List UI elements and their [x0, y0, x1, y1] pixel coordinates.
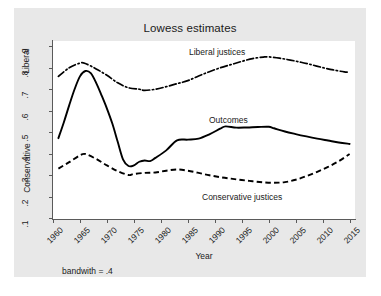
y-tick-label: .6 — [20, 110, 30, 124]
x-tick-mark — [134, 220, 135, 223]
x-tick-mark — [269, 220, 270, 223]
x-axis-spine — [52, 219, 356, 220]
x-tick-mark — [323, 220, 324, 223]
y-tick-label: .7 — [20, 88, 30, 102]
annotation-liberal-justices: Liberal justices — [189, 47, 245, 57]
x-tick-mark — [350, 220, 351, 223]
y-tick-mark — [49, 132, 52, 133]
x-tick-mark — [296, 220, 297, 223]
series-line-outcomes — [58, 71, 349, 167]
x-tick-mark — [242, 220, 243, 223]
x-tick-mark — [107, 220, 108, 223]
y-tick-label: .9 — [20, 45, 30, 59]
y-tick-label: .4 — [20, 153, 30, 167]
x-tick-mark — [53, 220, 54, 223]
annotation-outcomes: Outcomes — [209, 115, 248, 125]
chart-title: Lowess estimates — [14, 22, 366, 34]
y-tick-mark — [49, 46, 52, 47]
annotation-conservative-justices: Conservative justices — [202, 192, 282, 202]
chart-figure: Lowess estimates Liberal Conservative .1… — [14, 8, 366, 277]
y-tick-label: .5 — [20, 131, 30, 145]
y-tick-mark — [49, 197, 52, 198]
x-tick-mark — [80, 220, 81, 223]
x-tick-mark — [161, 220, 162, 223]
y-tick-mark — [49, 175, 52, 176]
y-tick-mark — [49, 218, 52, 219]
x-tick-mark — [215, 220, 216, 223]
y-tick-label: .1 — [20, 217, 30, 231]
bandwidth-note: bandwith = .4 — [62, 266, 113, 276]
y-tick-mark — [49, 68, 52, 69]
y-tick-label: .3 — [20, 174, 30, 188]
y-tick-label: .2 — [20, 196, 30, 210]
y-tick-mark — [49, 154, 52, 155]
series-line-liberal-justices — [58, 57, 349, 91]
y-tick-mark — [49, 89, 52, 90]
x-axis-title: Year — [52, 251, 356, 261]
x-tick-mark — [188, 220, 189, 223]
y-tick-mark — [49, 111, 52, 112]
series-line-conservative-justices — [58, 154, 349, 183]
y-tick-label: .8 — [20, 67, 30, 81]
